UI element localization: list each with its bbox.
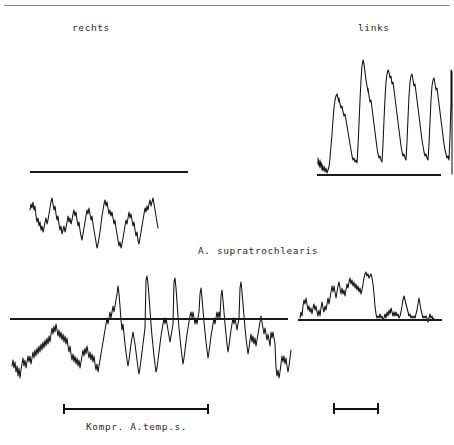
bracket-bar — [63, 408, 209, 410]
kompression-waveform-trace — [10, 272, 292, 396]
kontrolle-waveform-trace — [298, 268, 446, 326]
scale-bar — [333, 403, 379, 414]
links-waveform-trace — [312, 46, 452, 178]
doppler-figure: rechts links A. supratrochlearis Kompr. … — [0, 0, 454, 445]
links-baseline — [317, 174, 441, 176]
panel-label-rechts: rechts — [72, 22, 110, 33]
panel-label-links: links — [358, 22, 390, 33]
scale-bar-cap-right — [377, 403, 379, 414]
bracket-cap-right — [207, 404, 209, 414]
top-divider-rule — [4, 5, 450, 6]
kompression-reference-line — [10, 318, 288, 320]
compression-label: Kompr. A.temp.s. — [86, 421, 187, 432]
kontrolle-baseline — [298, 319, 442, 321]
compression-bracket — [63, 404, 209, 414]
scale-bar-line — [333, 408, 379, 410]
rechts-baseline — [30, 171, 188, 173]
vessel-label: A. supratrochlearis — [198, 245, 318, 256]
rechts-waveform-trace — [28, 196, 160, 252]
